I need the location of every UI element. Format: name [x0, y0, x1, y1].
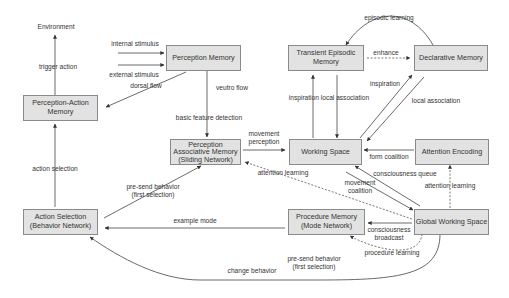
- label-dorsal-flow: dorsal flow: [126, 82, 166, 90]
- node-perception-associative-memory: Perception Associative Memory (Sliding N…: [170, 139, 241, 165]
- label-basic-feature-detection: basic feature detection: [170, 114, 248, 122]
- label-change-behavior: change behavior: [224, 267, 280, 275]
- label-example-mode: example mode: [170, 217, 220, 225]
- node-environment: Environment: [30, 23, 82, 31]
- node-transient-episodic-memory: Transient Episodic Memory: [288, 45, 364, 71]
- label-consciousness-broadcast: consciousness broadcast: [364, 226, 414, 242]
- label-veutro-flow: veutro flow: [212, 84, 252, 92]
- label-form-coalition: form coalition: [364, 153, 414, 161]
- label-episodic-learning: episodic learning: [360, 14, 418, 22]
- label-movement-coalition: movement coalition: [342, 179, 378, 195]
- node-procedure-memory: Procedure Memory (Mode Network): [288, 209, 365, 235]
- label-external-stimulus: external stimulus: [102, 71, 166, 79]
- label-procedure-learning: procedure learning: [360, 249, 424, 257]
- node-declarative-memory: Declarative Memory: [414, 45, 488, 71]
- node-global-working-space: Global Working Space: [414, 209, 489, 235]
- node-attention-encoding: Attention Encoding: [415, 139, 489, 165]
- label-local-association: local association: [408, 97, 464, 105]
- label-attention-learning-right: attention learning: [420, 182, 480, 190]
- label-inspiration: inspiration: [366, 80, 404, 88]
- node-perception-memory: Perception Memory: [166, 45, 241, 71]
- label-action-selection: action selection: [28, 165, 82, 173]
- label-trigger-action: trigger action: [34, 63, 82, 71]
- node-working-space: Working Space: [289, 139, 362, 165]
- label-internal-stimulus: internal stimulus: [104, 40, 166, 48]
- label-inspiration-local-association: inspiration local association: [285, 94, 373, 102]
- node-action-selection: Action Selection (Behavior Network): [23, 209, 98, 235]
- label-pre-send-behavior-top: pre-send behavior (first selection): [122, 183, 184, 199]
- label-consciousness-queue: consciousness queue: [368, 170, 442, 178]
- diagram-canvas: Environment Perception-Action Memory Per…: [0, 0, 509, 298]
- label-attention-learning-dashed: attention learning: [253, 169, 313, 177]
- node-perception-action-memory: Perception-Action Memory: [23, 95, 98, 121]
- label-movement-perception: movement perception: [244, 130, 284, 146]
- label-pre-send-behavior-bottom: pre-send behavior (first selection): [282, 255, 346, 271]
- label-enhance: enhance: [370, 49, 402, 57]
